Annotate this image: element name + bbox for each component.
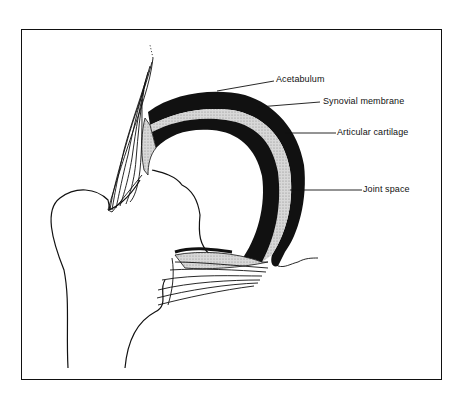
label-joint-space: Joint space: [363, 184, 410, 194]
femoral-cartilage: [152, 119, 279, 262]
label-synovial-membrane: Synovial membrane: [323, 96, 404, 106]
label-articular-cartilage: Articular cartilage: [337, 127, 408, 137]
hip-joint-illustration: [0, 0, 462, 394]
label-acetabulum: Acetabulum: [276, 74, 325, 84]
